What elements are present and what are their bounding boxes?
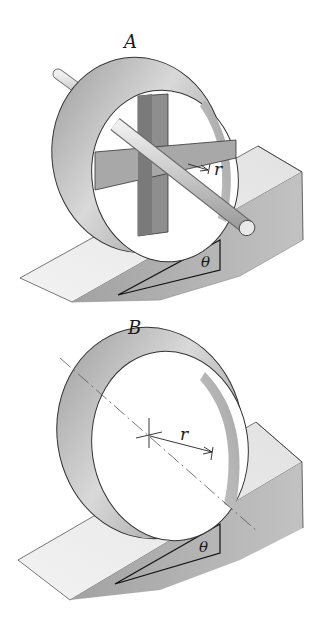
panel-a: θ r <box>20 31 303 302</box>
panel-label-a: A <box>122 31 137 52</box>
diagram-canvas: θ r <box>0 0 330 625</box>
radius-label-b: r <box>180 424 189 444</box>
angle-label-a: θ <box>201 253 210 271</box>
panel-label-b: B <box>127 317 141 338</box>
radius-label-a: r <box>214 159 223 179</box>
panel-b: θ r B <box>18 315 303 600</box>
angle-label-b: θ <box>199 538 208 556</box>
